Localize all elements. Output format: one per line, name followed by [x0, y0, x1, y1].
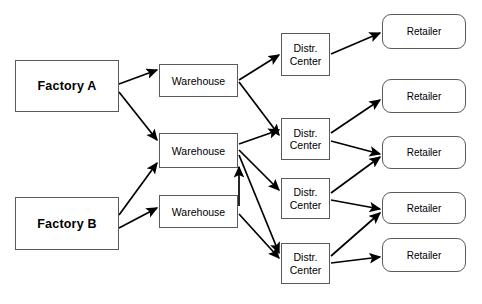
retailer-5-label: Retailer: [407, 250, 441, 261]
dc-4-label-line2: Center: [290, 264, 322, 276]
node-factory-b[interactable]: Factory B: [15, 197, 119, 250]
dc-3-label: Distr.Center: [290, 186, 322, 210]
arrow-factory-b-to-warehouse-3: [119, 208, 157, 228]
dc-4-label-line1: Distr.: [290, 251, 322, 263]
arrow-factory-b-to-warehouse-2: [119, 163, 157, 215]
factory-a-label: Factory A: [38, 79, 97, 93]
arrow-factory-a-to-warehouse-1: [119, 70, 157, 84]
node-retailer-2[interactable]: Retailer: [382, 79, 466, 113]
arrow-warehouse-1-to-dc-2: [239, 82, 279, 135]
dc-2-label-line2: Center: [290, 139, 322, 151]
retailer-3-label: Retailer: [407, 147, 441, 158]
node-warehouse-2[interactable]: Warehouse: [159, 133, 238, 168]
node-factory-a[interactable]: Factory A: [15, 60, 119, 112]
node-retailer-4[interactable]: Retailer: [382, 192, 466, 224]
dc-3-label-line2: Center: [290, 199, 322, 211]
supply-chain-diagram: Factory AFactory BWarehouseWarehouseWare…: [0, 0, 482, 304]
node-dc-4[interactable]: Distr.Center: [281, 243, 330, 284]
node-dc-2[interactable]: Distr.Center: [281, 118, 330, 160]
node-dc-3[interactable]: Distr.Center: [281, 178, 330, 219]
arrow-dc-4-to-retailer-4: [331, 213, 380, 256]
dc-1-label-line2: Center: [290, 55, 322, 67]
node-warehouse-3[interactable]: Warehouse: [159, 195, 238, 228]
arrow-dc-2-to-retailer-3: [331, 141, 380, 154]
dc-2-label: Distr.Center: [290, 127, 322, 151]
warehouse-2-label: Warehouse: [172, 145, 225, 157]
node-dc-1[interactable]: Distr.Center: [281, 33, 330, 76]
arrow-dc-3-to-retailer-4: [331, 200, 380, 209]
arrow-warehouse-3-to-dc-4: [239, 214, 279, 258]
dc-2-label-line1: Distr.: [290, 127, 322, 139]
node-retailer-1[interactable]: Retailer: [382, 14, 466, 49]
node-retailer-5[interactable]: Retailer: [382, 238, 466, 272]
arrow-warehouse-2-to-dc-2: [239, 130, 279, 144]
arrow-dc-1-to-retailer-1: [331, 33, 380, 54]
retailer-1-label: Retailer: [407, 26, 441, 37]
arrow-dc-3-to-retailer-3: [331, 157, 380, 193]
arrow-dc-4-to-retailer-5: [331, 257, 380, 263]
retailer-2-label: Retailer: [407, 91, 441, 102]
factory-b-label: Factory B: [37, 217, 96, 231]
dc-1-label-line1: Distr.: [290, 42, 322, 54]
node-warehouse-1[interactable]: Warehouse: [159, 64, 238, 97]
dc-3-label-line1: Distr.: [290, 186, 322, 198]
warehouse-3-label: Warehouse: [172, 206, 225, 218]
retailer-4-label: Retailer: [407, 203, 441, 214]
dc-4-label: Distr.Center: [290, 251, 322, 275]
arrow-factory-a-to-warehouse-2: [119, 92, 157, 140]
arrow-warehouse-1-to-dc-1: [239, 55, 279, 80]
warehouse-1-label: Warehouse: [172, 75, 225, 87]
arrow-dc-2-to-retailer-2: [331, 100, 380, 133]
dc-1-label: Distr.Center: [290, 42, 322, 66]
node-retailer-3[interactable]: Retailer: [382, 136, 466, 169]
